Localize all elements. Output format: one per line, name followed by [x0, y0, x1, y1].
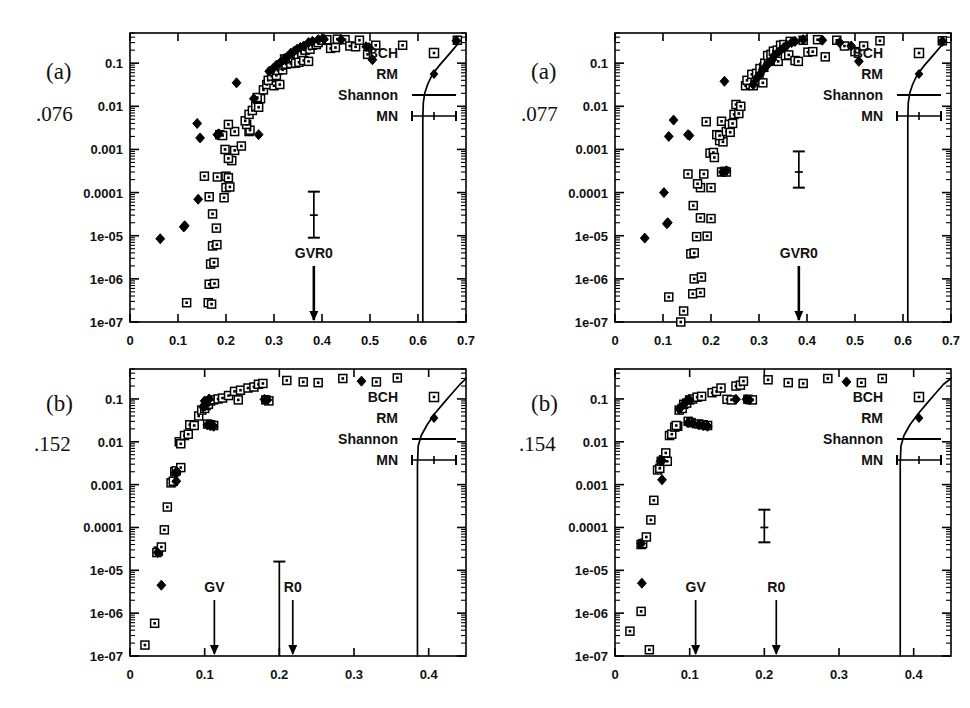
legend-label-rm: RM	[861, 66, 883, 82]
data-point-bch-center	[738, 112, 741, 115]
legend: BCHRMShannonMN	[338, 389, 456, 468]
data-point-rm	[842, 377, 851, 387]
data-point-rm	[232, 78, 241, 88]
data-point-bch-center	[229, 186, 232, 189]
data-point-bch-center	[233, 130, 236, 133]
data-point-bch-center	[307, 60, 310, 63]
data-point-bch-center	[193, 424, 196, 427]
data-point-bch-center	[693, 278, 696, 281]
annotation-arrow-head	[309, 311, 318, 321]
legend: BCHRMShannonMN	[338, 45, 456, 124]
legend-label-rm: RM	[376, 410, 398, 426]
y-tick-label: 1e-07	[575, 315, 608, 330]
plot-frame	[615, 33, 951, 322]
data-point-bch-center	[334, 46, 337, 49]
legend-label-mn: MN	[376, 452, 398, 468]
y-tick-label: 0.01	[98, 99, 123, 114]
plot-frame	[130, 369, 466, 656]
data-point-bch-center	[720, 387, 723, 390]
data-point-bch-center	[667, 296, 670, 299]
legend-label-rm: RM	[861, 410, 883, 426]
data-point-rm	[194, 194, 203, 204]
y-tick-label: 0.01	[583, 435, 608, 450]
x-tick-label: 0.5	[361, 333, 379, 348]
x-tick-label: 0.4	[313, 333, 332, 348]
x-tick-label: 0.7	[457, 333, 475, 348]
data-point-rm	[254, 130, 263, 140]
y-tick-label: 0.0001	[568, 186, 608, 201]
panel-a-left: (a) .076 0.10.010.0010.00011e-051e-061e-…	[0, 0, 485, 354]
x-tick-label: 0.3	[345, 667, 363, 682]
annotation-label: GV	[204, 579, 225, 595]
data-point-rm	[664, 131, 673, 141]
data-point-bch-center	[802, 382, 805, 385]
data-point-bch-center	[629, 630, 632, 633]
data-point-bch-center	[682, 310, 685, 313]
plot-content: 0.10.010.0010.00011e-051e-061e-0700.10.2…	[83, 369, 466, 682]
legend-label-bch: BCH	[368, 45, 398, 61]
data-point-rm	[357, 376, 366, 386]
series-rm	[640, 35, 946, 243]
x-tick-label: 0.3	[265, 333, 283, 348]
data-point-bch-center	[257, 106, 260, 109]
y-tick-label: 1e-07	[575, 649, 608, 664]
data-point-bch-center	[879, 39, 882, 42]
annotation-arrow-head	[772, 645, 781, 655]
data-point-bch-center	[179, 466, 182, 469]
shannon-curve	[423, 40, 461, 322]
y-tick-label: 1e-05	[575, 229, 608, 244]
data-point-rm	[637, 578, 646, 588]
data-point-bch-center	[664, 452, 667, 455]
data-point-bch-center	[160, 546, 163, 549]
data-point-bch-center	[718, 134, 721, 137]
y-tick-label: 0.001	[575, 142, 608, 157]
data-point-bch-center	[731, 122, 734, 125]
x-tick-label: 0.5	[846, 333, 864, 348]
data-point-bch-center	[650, 519, 653, 522]
data-point-bch-center	[237, 399, 240, 402]
annotation-arrow-head	[691, 645, 700, 655]
data-point-bch-center	[197, 415, 200, 418]
legend-label-shannon: Shannon	[823, 87, 883, 103]
data-point-bch-center	[762, 82, 765, 85]
data-point-bch-center	[787, 54, 790, 57]
data-point-bch-center	[687, 173, 690, 176]
annotation-gv: GV	[204, 579, 225, 655]
legend-label-bch: BCH	[853, 45, 883, 61]
series-bch	[183, 35, 462, 308]
data-point-bch-center	[317, 381, 320, 384]
data-point-bch-center	[224, 148, 227, 151]
annotation-arrow-head	[794, 311, 803, 321]
data-point-bch-center	[210, 303, 213, 306]
data-point-rm	[193, 118, 202, 128]
legend-marker-open-square-center	[918, 396, 921, 399]
plot-frame	[130, 33, 466, 322]
y-tick-label: 0.0001	[83, 520, 123, 535]
x-tick-label: 0.3	[830, 667, 848, 682]
data-point-bch-center	[679, 321, 682, 324]
legend-marker-open-square-center	[433, 52, 436, 55]
mn-errorbar	[793, 151, 805, 187]
annotation-label: GVR0	[780, 245, 818, 261]
data-point-bch-center	[187, 433, 190, 436]
y-tick-label: 0.0001	[568, 520, 608, 535]
data-point-rm	[720, 76, 729, 86]
data-point-bch-center	[824, 56, 827, 59]
y-tick-label: 1e-06	[575, 606, 608, 621]
x-tick-label: 0.7	[942, 333, 960, 348]
data-point-bch-center	[675, 424, 678, 427]
x-tick-label: 0.2	[702, 333, 720, 348]
y-tick-label: 1e-06	[90, 606, 123, 621]
data-point-bch-center	[746, 79, 749, 82]
data-point-bch-center	[693, 252, 696, 255]
shannon-curve	[908, 40, 946, 322]
x-tick-label: 0	[611, 333, 618, 348]
data-point-bch-center	[722, 141, 725, 144]
x-tick-label: 0.2	[270, 667, 288, 682]
y-tick-label: 1e-05	[575, 563, 608, 578]
plot-a-right: 0.10.010.0010.00011e-051e-061e-0700.10.2…	[485, 0, 970, 354]
legend-label-mn: MN	[376, 108, 398, 124]
data-point-bch-center	[216, 243, 219, 246]
data-point-bch-center	[213, 261, 216, 264]
data-point-bch-center	[739, 105, 742, 108]
